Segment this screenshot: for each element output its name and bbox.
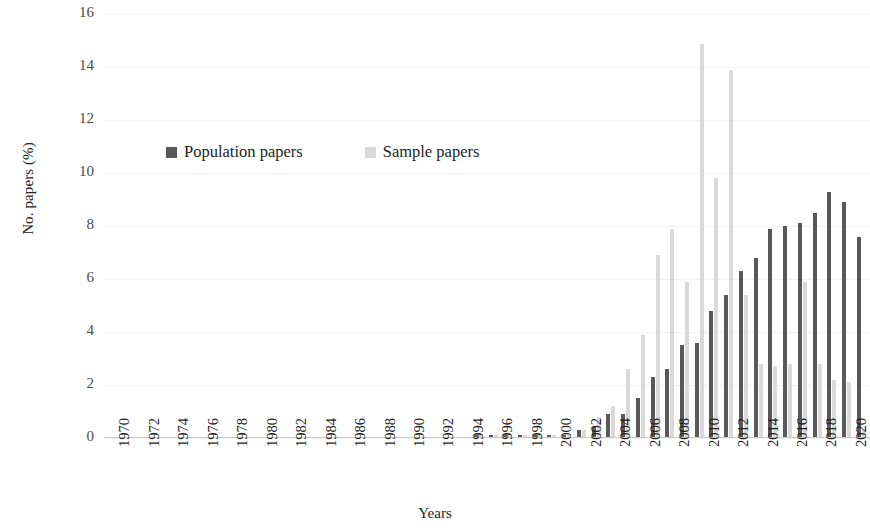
x-tick-2008: 2008 <box>676 418 693 447</box>
bar-group-2012 <box>724 14 739 438</box>
x-tick-1982: 1982 <box>293 418 310 447</box>
bar-population-2012 <box>724 295 728 438</box>
x-tick-2000: 2000 <box>558 418 575 447</box>
bar-group-1976 <box>194 14 209 438</box>
bar-group-1988 <box>371 14 386 438</box>
bar-group-2021 <box>857 14 870 438</box>
x-tick-2016: 2016 <box>794 418 811 447</box>
bar-group-2005 <box>621 14 636 438</box>
bar-group-2013 <box>739 14 754 438</box>
bar-sample-2013 <box>744 295 748 438</box>
bar-group-2009 <box>680 14 695 438</box>
x-tick-1980: 1980 <box>264 418 281 447</box>
x-tick-2002: 2002 <box>588 418 605 447</box>
x-tick-2020: 2020 <box>853 418 870 447</box>
bar-group-1998 <box>518 14 533 438</box>
bar-population-2016 <box>783 226 787 438</box>
bar-group-2007 <box>651 14 666 438</box>
x-tick-1998: 1998 <box>529 418 546 447</box>
bar-group-2006 <box>636 14 651 438</box>
bar-sample-2009 <box>685 282 689 438</box>
bar-population-2020 <box>842 202 846 438</box>
bar-group-1997 <box>503 14 518 438</box>
y-tick-10: 10 <box>60 163 94 180</box>
x-tick-1996: 1996 <box>499 418 516 447</box>
bar-sample-2008 <box>670 229 674 438</box>
bar-group-1987 <box>356 14 371 438</box>
legend-swatch-sample <box>365 147 376 158</box>
chart-figure: No. papers (%) 0246810121416 19701972197… <box>0 0 870 531</box>
bar-group-1982 <box>282 14 297 438</box>
bar-group-1990 <box>400 14 415 438</box>
bar-sample-2018 <box>818 364 822 438</box>
x-tick-1992: 1992 <box>440 418 457 447</box>
bar-sample-2010 <box>700 44 704 438</box>
x-tick-2006: 2006 <box>647 418 664 447</box>
bar-group-2002 <box>577 14 592 438</box>
bar-population-2021 <box>857 237 861 438</box>
x-tick-1970: 1970 <box>116 418 133 447</box>
x-tick-1986: 1986 <box>352 418 369 447</box>
chart-legend: Population papersSample papers <box>166 142 541 162</box>
x-tick-1984: 1984 <box>323 418 340 447</box>
bar-group-2011 <box>709 14 724 438</box>
x-tick-2014: 2014 <box>765 418 782 447</box>
legend-swatch-population <box>166 147 177 158</box>
bar-population-2017 <box>798 223 802 438</box>
x-tick-1994: 1994 <box>470 418 487 447</box>
legend-item-sample: Sample papers <box>365 142 480 162</box>
bar-group-1999 <box>533 14 548 438</box>
bar-group-1985 <box>326 14 341 438</box>
y-tick-6: 6 <box>60 269 94 286</box>
bar-group-1977 <box>209 14 224 438</box>
y-tick-14: 14 <box>60 57 94 74</box>
bar-group-1981 <box>268 14 283 438</box>
y-axis-title: No. papers (%) <box>20 109 37 269</box>
bar-group-1971 <box>120 14 135 438</box>
bar-population-2015 <box>768 229 772 438</box>
bar-group-1978 <box>223 14 238 438</box>
bar-sample-2006 <box>641 335 645 438</box>
plot-area <box>104 14 870 438</box>
bar-group-2004 <box>606 14 621 438</box>
bar-sample-2012 <box>729 70 733 438</box>
bar-group-1989 <box>385 14 400 438</box>
x-tick-2018: 2018 <box>823 418 840 447</box>
y-tick-8: 8 <box>60 216 94 233</box>
bar-sample-2004 <box>611 406 615 438</box>
bar-group-2016 <box>783 14 798 438</box>
bar-population-2018 <box>813 213 817 438</box>
legend-label-population: Population papers <box>184 142 303 162</box>
bar-group-1986 <box>341 14 356 438</box>
bar-group-1983 <box>297 14 312 438</box>
x-tick-1978: 1978 <box>234 418 251 447</box>
bar-group-1970 <box>106 14 121 438</box>
legend-item-population: Population papers <box>166 142 303 162</box>
bar-sample-2011 <box>714 178 718 438</box>
bar-population-2014 <box>754 258 758 438</box>
x-axis-title: Years <box>0 505 870 522</box>
bar-group-1991 <box>415 14 430 438</box>
bar-group-1984 <box>312 14 327 438</box>
y-tick-0: 0 <box>60 428 94 445</box>
x-tick-1988: 1988 <box>382 418 399 447</box>
bar-group-2010 <box>695 14 710 438</box>
bar-group-2020 <box>842 14 857 438</box>
bar-group-2019 <box>827 14 842 438</box>
y-tick-2: 2 <box>60 375 94 392</box>
bar-group-2008 <box>665 14 680 438</box>
x-tick-2004: 2004 <box>617 418 634 447</box>
bar-group-2018 <box>813 14 828 438</box>
bar-sample-2007 <box>656 255 660 438</box>
bar-group-2001 <box>562 14 577 438</box>
bar-group-1974 <box>164 14 179 438</box>
x-tick-1972: 1972 <box>146 418 163 447</box>
bar-sample-2016 <box>788 364 792 438</box>
y-tick-16: 16 <box>60 4 94 21</box>
bar-population-2019 <box>827 192 831 438</box>
x-tick-1990: 1990 <box>411 418 428 447</box>
bar-sample-2017 <box>803 282 807 438</box>
bar-group-1995 <box>474 14 489 438</box>
bar-group-1980 <box>253 14 268 438</box>
bar-group-2014 <box>754 14 769 438</box>
